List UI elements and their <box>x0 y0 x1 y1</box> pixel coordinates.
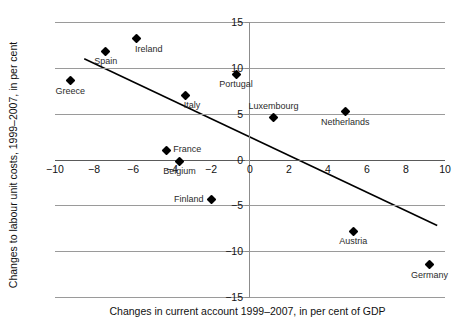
plot-area: −15−10−5051015−10−8−6−4−20246810GreeceSp… <box>0 0 469 330</box>
x-tick-label: −6 <box>120 163 146 175</box>
x-tick-label: −10 <box>42 163 68 175</box>
data-point-label: Belgium <box>163 166 196 176</box>
x-tick-label: 10 <box>432 163 458 175</box>
y-tick-label: −10 <box>225 245 243 257</box>
x-tick-label: 0 <box>237 163 263 175</box>
data-point-marker[interactable] <box>424 260 434 270</box>
data-point-marker[interactable] <box>206 195 216 205</box>
data-point-marker[interactable] <box>181 90 191 100</box>
y-tick-label-wrap: 5 <box>217 108 243 120</box>
data-point-label: France <box>173 144 201 154</box>
gridline-y <box>55 297 445 298</box>
y-tick-label-wrap: −10 <box>217 245 243 257</box>
data-point-label: Greece <box>56 86 86 96</box>
data-point-marker[interactable] <box>341 107 351 117</box>
data-point-marker[interactable] <box>348 226 358 236</box>
x-tick-label: 4 <box>315 163 341 175</box>
y-tick-label: −5 <box>231 199 243 211</box>
gridline-y <box>55 68 445 69</box>
x-tick-label: 6 <box>354 163 380 175</box>
data-point-label: Ireland <box>135 44 163 54</box>
data-point-label: Luxembourg <box>248 101 298 111</box>
gridline-y <box>55 22 445 23</box>
y-tick-label: −15 <box>225 291 243 303</box>
data-point-label: Spain <box>94 56 117 66</box>
x-tick-label: 2 <box>276 163 302 175</box>
y-axis-line <box>249 22 250 298</box>
data-point-label: Netherlands <box>321 117 370 127</box>
gridline-y <box>55 251 445 252</box>
x-tick-label: 8 <box>393 163 419 175</box>
y-tick-label: 15 <box>231 16 243 28</box>
x-tick-label: −8 <box>81 163 107 175</box>
data-point-label: Italy <box>184 100 201 110</box>
data-point-label: Finland <box>174 194 204 204</box>
data-point-marker[interactable] <box>66 76 76 86</box>
zero-line <box>55 160 445 161</box>
y-tick-label-wrap: 15 <box>217 16 243 28</box>
data-point-marker[interactable] <box>132 34 142 44</box>
gridline-y <box>55 114 445 115</box>
data-point-marker[interactable] <box>101 46 111 56</box>
y-tick-label-wrap: −15 <box>217 291 243 303</box>
x-tick-label: −2 <box>198 163 224 175</box>
data-point-label: Germany <box>411 270 448 280</box>
data-point-label: Austria <box>339 236 367 246</box>
y-tick-label: 5 <box>237 108 243 120</box>
data-point-label: Portugal <box>219 79 253 89</box>
y-tick-label-wrap: −5 <box>217 199 243 211</box>
gridline-y <box>55 205 445 206</box>
data-point-marker[interactable] <box>161 145 171 155</box>
scatter-chart-figure: Changes to labour unit costs, 1999–2007,… <box>0 0 469 330</box>
